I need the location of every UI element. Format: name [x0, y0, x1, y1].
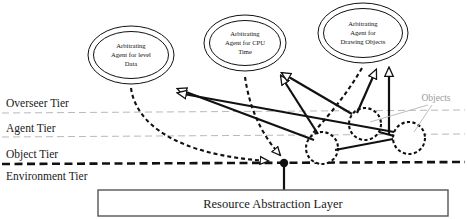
agent-drawing-line-2: Agent for — [350, 29, 376, 36]
objects-leader-line-1 — [370, 105, 428, 122]
link-agent-leveldata-to-junction — [131, 88, 268, 161]
link-obj2-to-agent-drawing — [357, 70, 376, 113]
tier-label-overseer: Overseer Tier — [6, 97, 69, 109]
agent-drawing-line-1: Arbitrating — [348, 20, 378, 27]
agent-level-data-line-2: Agent for level — [111, 51, 151, 58]
tier-label-environment: Environment Tier — [6, 170, 88, 182]
diagram-canvas: Overseer Tier Agent Tier Object Tier Env… — [0, 0, 467, 219]
agent-cpu-time-line-1: Arbitrating — [230, 30, 260, 37]
tier-labels: Overseer Tier Agent Tier Object Tier Env… — [6, 97, 88, 182]
agent-node-drawing-objects[interactable]: Arbitrating Agent for Drawing Objects — [318, 3, 408, 63]
objects-label: Objects — [421, 93, 450, 103]
agent-cpu-time-line-3: Time — [238, 48, 252, 55]
agent-level-data-line-3: Data — [125, 60, 138, 67]
object-circles — [306, 108, 425, 164]
resource-abstraction-layer[interactable]: Resource Abstraction Layer — [98, 190, 448, 216]
agent-level-data-line-1: Arbitrating — [116, 42, 146, 49]
agent-node-level-data[interactable]: Arbitrating Agent for level Data — [88, 26, 174, 84]
agent-drawing-line-3: Drawing Objects — [341, 38, 386, 45]
link-obj1-to-obj3 — [335, 139, 393, 150]
object-circle-1 — [306, 132, 338, 164]
object-circle-3 — [393, 122, 425, 154]
agent-node-cpu-time[interactable]: Arbitrating Agent for CPU Time — [204, 15, 286, 71]
tier-label-agent: Agent Tier — [6, 122, 56, 135]
resource-junction — [280, 159, 288, 190]
architecture-diagram: Overseer Tier Agent Tier Object Tier Env… — [0, 0, 467, 219]
object-tier-line — [2, 162, 465, 164]
agent-cpu-time-line-2: Agent for CPU — [225, 39, 265, 46]
tier-label-object: Object Tier — [6, 148, 58, 161]
link-obj1-to-agent-cputime — [281, 76, 318, 134]
objects-leader-line-2 — [414, 105, 432, 132]
resource-abstraction-layer-label: Resource Abstraction Layer — [203, 197, 343, 211]
